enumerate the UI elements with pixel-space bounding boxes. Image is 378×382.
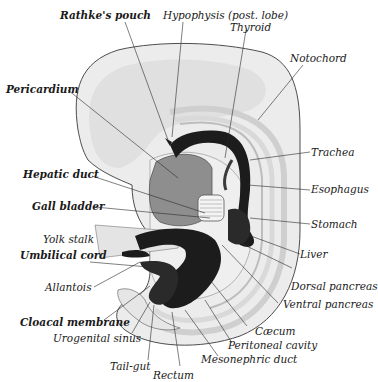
- label-umbilical-cord: Umbilical cord: [20, 250, 107, 261]
- label-gall-bladder: Gall bladder: [32, 201, 104, 212]
- label-mesonephric-duct: Mesonephric duct: [201, 354, 297, 365]
- label-peritoneal-cavity: Peritoneal cavity: [228, 340, 317, 351]
- label-yolk-stalk: Yolk stalk: [43, 234, 94, 245]
- label-hypophysis: Hypophysis (post. lobe): [163, 10, 288, 21]
- label-cloacal-membrane: Cloacal membrane: [20, 317, 130, 328]
- label-caecum: Cæcum: [255, 326, 296, 337]
- label-urogenital-sinus: Urogenital sinus: [53, 333, 141, 344]
- label-dorsal-pancreas: Dorsal pancreas: [291, 281, 378, 292]
- label-stomach: Stomach: [311, 219, 358, 230]
- label-ventral-pancreas: Ventral pancreas: [283, 299, 373, 310]
- label-thyroid: Thyroid: [230, 22, 271, 33]
- label-esophagus: Esophagus: [311, 184, 369, 195]
- label-trachea: Trachea: [311, 147, 354, 158]
- label-rathkes-pouch: Rathke's pouch: [60, 10, 151, 21]
- label-liver: Liver: [300, 249, 328, 260]
- label-allantois: Allantois: [45, 282, 92, 293]
- label-hepatic-duct: Hepatic duct: [23, 169, 99, 180]
- label-tail-gut: Tail-gut: [110, 361, 150, 372]
- label-pericardium: Pericardium: [6, 84, 79, 95]
- label-notochord: Notochord: [290, 53, 347, 64]
- label-rectum: Rectum: [153, 370, 194, 381]
